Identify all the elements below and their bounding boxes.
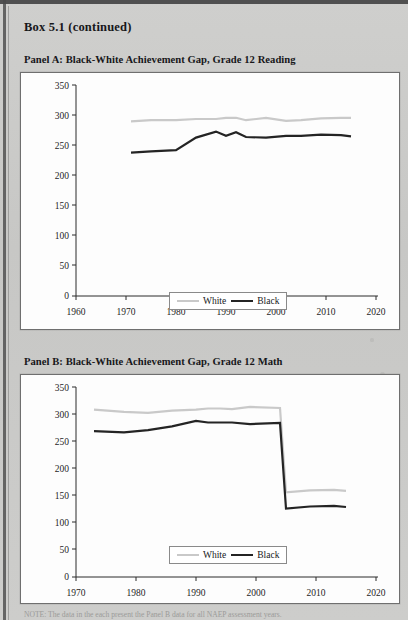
legend-item-white: White xyxy=(177,550,226,560)
legend-label-white: White xyxy=(203,550,226,560)
white-line-swatch-icon xyxy=(177,300,199,302)
page-edge-top xyxy=(0,0,408,4)
panel-a-chart: 350 300 250 200 150 100 50 0 1960 1970 1… xyxy=(20,72,400,330)
black-line-swatch-icon xyxy=(231,300,253,302)
page-edge-left-inner xyxy=(8,6,9,620)
svg-text:200: 200 xyxy=(55,464,70,474)
panel-b-plot: 350 300 250 200 150 100 50 0 1970 1980 1… xyxy=(21,375,399,603)
svg-text:2000: 2000 xyxy=(247,588,266,598)
white-line-swatch-icon xyxy=(177,554,199,556)
legend-item-black: Black xyxy=(231,550,279,560)
panel-a-title: Panel A: Black-White Achievement Gap, Gr… xyxy=(24,54,296,65)
panel-a-legend: White Black xyxy=(169,292,287,310)
svg-text:150: 150 xyxy=(55,491,70,501)
svg-text:1970: 1970 xyxy=(67,588,86,598)
panel-b-series-black xyxy=(94,421,346,509)
svg-text:2010: 2010 xyxy=(307,588,326,598)
figure-note: NOTE: The data in the each present the P… xyxy=(24,610,400,619)
legend-label-black: Black xyxy=(257,550,279,560)
panel-b-svg: 350 300 250 200 150 100 50 0 1970 1980 1… xyxy=(21,375,399,603)
svg-text:1980: 1980 xyxy=(127,588,146,598)
legend-item-white: White xyxy=(177,296,226,306)
panel-a-svg: 350 300 250 200 150 100 50 0 1960 1970 1… xyxy=(21,73,399,329)
svg-text:350: 350 xyxy=(55,81,70,91)
panel-a-plot: 350 300 250 200 150 100 50 0 1960 1970 1… xyxy=(21,73,399,329)
panel-b-x-ticks xyxy=(76,577,376,581)
svg-text:150: 150 xyxy=(55,201,70,211)
svg-text:300: 300 xyxy=(55,111,70,121)
svg-text:100: 100 xyxy=(55,231,70,241)
svg-text:50: 50 xyxy=(60,261,70,271)
black-line-swatch-icon xyxy=(231,554,253,556)
svg-text:1960: 1960 xyxy=(67,307,86,317)
svg-text:350: 350 xyxy=(55,383,70,393)
panel-b-y-ticklabels: 350 300 250 200 150 100 50 0 xyxy=(55,383,70,582)
panel-b-series-white xyxy=(94,407,346,493)
page-content: Box 5.1 (continued) Panel A: Black-White… xyxy=(11,6,403,618)
panel-a-y-ticks xyxy=(72,85,76,296)
svg-text:300: 300 xyxy=(55,410,70,420)
panel-b-x-ticklabels: 1970 1980 1990 2000 2010 2020 xyxy=(67,588,386,598)
svg-text:2020: 2020 xyxy=(367,588,386,598)
panel-b-y-ticks xyxy=(72,387,76,577)
panel-a-series-white xyxy=(131,118,351,122)
svg-text:2010: 2010 xyxy=(317,307,336,317)
legend-item-black: Black xyxy=(231,296,279,306)
page-edge-left xyxy=(3,0,6,620)
svg-text:100: 100 xyxy=(55,518,70,528)
svg-text:1990: 1990 xyxy=(187,588,206,598)
svg-text:2020: 2020 xyxy=(367,307,386,317)
svg-text:250: 250 xyxy=(55,141,70,151)
panel-b-chart: 350 300 250 200 150 100 50 0 1970 1980 1… xyxy=(20,374,400,604)
panel-b-legend: White Black xyxy=(169,546,287,564)
legend-label-black: Black xyxy=(257,296,279,306)
legend-label-white: White xyxy=(203,296,226,306)
svg-text:0: 0 xyxy=(64,572,69,582)
svg-text:200: 200 xyxy=(55,171,70,181)
panel-b-title: Panel B: Black-White Achievement Gap, Gr… xyxy=(24,356,283,367)
panel-a-y-ticklabels: 350 300 250 200 150 100 50 0 xyxy=(55,81,70,301)
scanned-page: Box 5.1 (continued) Panel A: Black-White… xyxy=(0,0,408,620)
panel-a-series-black xyxy=(131,132,351,153)
svg-text:0: 0 xyxy=(64,291,69,301)
svg-text:50: 50 xyxy=(60,545,70,555)
svg-text:1970: 1970 xyxy=(117,307,136,317)
svg-text:250: 250 xyxy=(55,437,70,447)
box-title: Box 5.1 (continued) xyxy=(24,20,132,35)
